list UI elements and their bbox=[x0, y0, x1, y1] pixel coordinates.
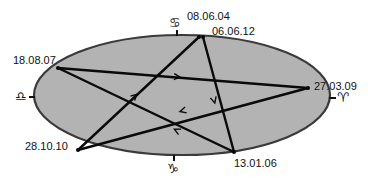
label-13-01-06: 13.01.06 bbox=[234, 158, 277, 169]
aries-icon: ♈ bbox=[337, 91, 349, 104]
label-28-10-10: 28.10.10 bbox=[25, 141, 68, 152]
label-27-03-09: 27.03.09 bbox=[314, 81, 357, 92]
capricorn-icon: ♑ bbox=[167, 162, 179, 175]
libra-icon: ♎ bbox=[15, 90, 27, 103]
pentagram-ellipse-diagram bbox=[0, 0, 371, 193]
label-08-06-04: 08.06.04 bbox=[187, 11, 230, 22]
label-06-06-12: 06.06.12 bbox=[212, 26, 255, 37]
cancer-icon: ♋ bbox=[169, 16, 181, 29]
label-18-08-07: 18.08.07 bbox=[13, 55, 56, 66]
